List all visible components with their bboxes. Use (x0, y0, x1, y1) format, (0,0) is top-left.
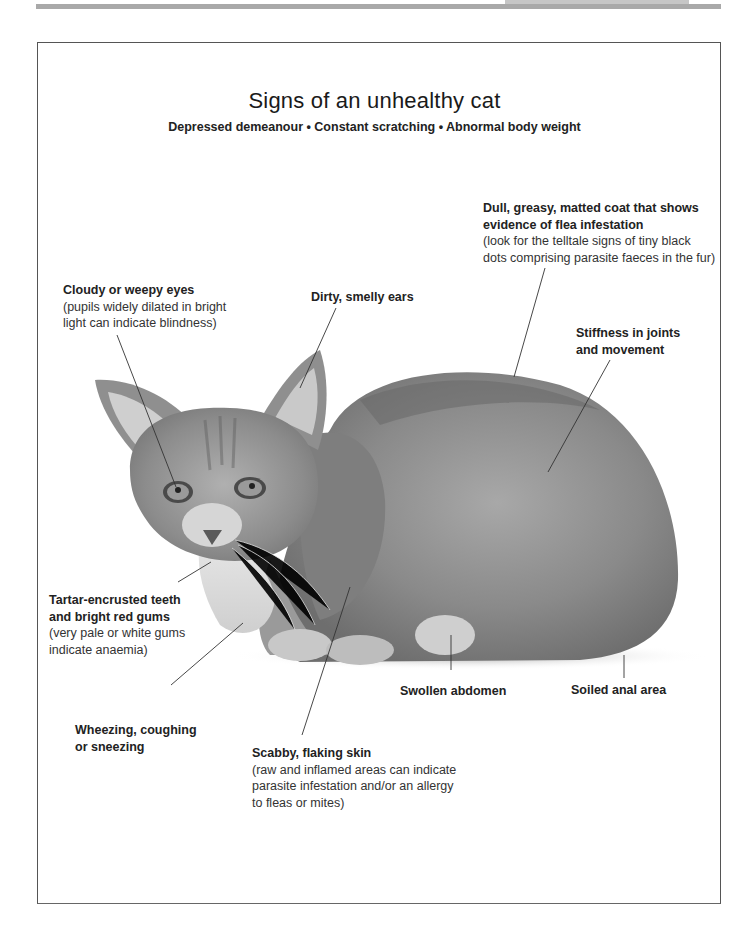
callout-skin-note-2: parasite infestation and/or an allergy (252, 778, 456, 795)
callout-skin-note-3: to fleas or mites) (252, 795, 456, 812)
callout-eyes-note-1: (pupils widely dilated in bright (63, 299, 226, 316)
callout-teeth-note-1: (very pale or white gums (49, 625, 185, 642)
callout-coat-note-2: dots comprising parasite faeces in the f… (483, 250, 715, 267)
callout-teeth-note-2: indicate anaemia) (49, 642, 185, 659)
callout-breathing-head-1: Wheezing, coughing (75, 722, 197, 739)
callout-skin: Scabby, flaking skin (raw and inflamed a… (252, 745, 456, 811)
callout-joints: Stiffness in joints and movement (576, 325, 680, 358)
callout-anal-head: Soiled anal area (571, 682, 666, 699)
callout-ears: Dirty, smelly ears (311, 289, 414, 306)
callout-breathing-head-2: or sneezing (75, 739, 197, 756)
callout-skin-note-1: (raw and inflamed areas can indicate (252, 762, 456, 779)
callout-joints-head-2: and movement (576, 342, 680, 359)
callout-abdomen: Swollen abdomen (400, 683, 506, 700)
callout-coat-note-1: (look for the telltale signs of tiny bla… (483, 233, 715, 250)
callout-coat: Dull, greasy, matted coat that shows evi… (483, 200, 715, 266)
callout-eyes-head: Cloudy or weepy eyes (63, 282, 226, 299)
callout-eyes-note-2: light can indicate blindness) (63, 315, 226, 332)
callout-joints-head-1: Stiffness in joints (576, 325, 680, 342)
callout-teeth: Tartar-encrusted teeth and bright red gu… (49, 592, 185, 658)
callout-coat-head-1: Dull, greasy, matted coat that shows (483, 200, 715, 217)
callout-breathing: Wheezing, coughing or sneezing (75, 722, 197, 755)
callout-coat-head-2: evidence of flea infestation (483, 217, 715, 234)
callout-skin-head: Scabby, flaking skin (252, 745, 456, 762)
callout-anal: Soiled anal area (571, 682, 666, 699)
callout-teeth-head-2: and bright red gums (49, 609, 185, 626)
callout-ears-head: Dirty, smelly ears (311, 289, 414, 306)
callout-eyes: Cloudy or weepy eyes (pupils widely dila… (63, 282, 226, 332)
callout-teeth-head-1: Tartar-encrusted teeth (49, 592, 185, 609)
callout-abdomen-head: Swollen abdomen (400, 683, 506, 700)
